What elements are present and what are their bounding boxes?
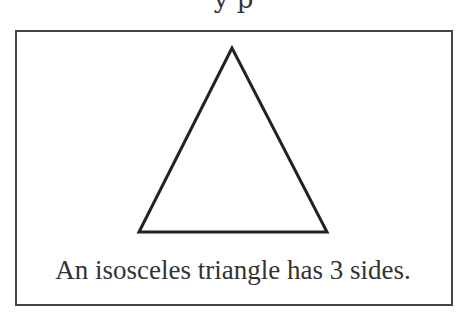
caption: An isosceles triangle has 3 sides.	[15, 255, 451, 286]
isosceles-triangle	[139, 48, 327, 232]
